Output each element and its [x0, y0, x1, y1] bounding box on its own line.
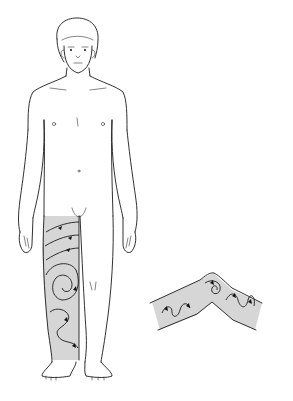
anatomy-illustration — [0, 0, 293, 401]
